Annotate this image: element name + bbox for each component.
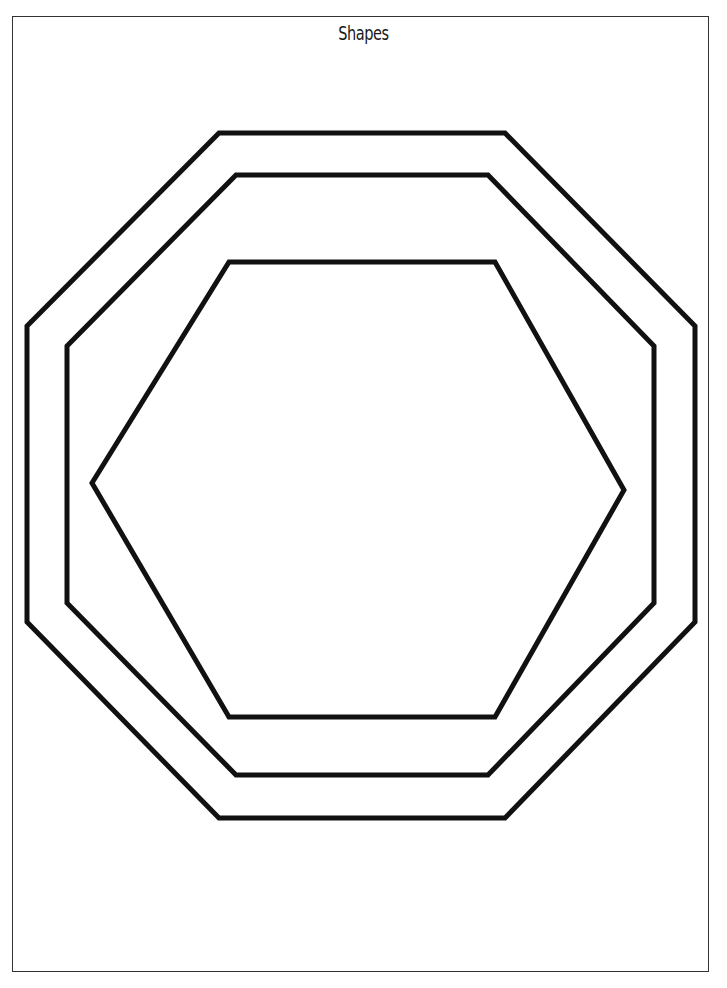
shapes-canvas xyxy=(0,0,727,988)
hexagon xyxy=(92,262,624,717)
inner-octagon xyxy=(67,175,654,775)
